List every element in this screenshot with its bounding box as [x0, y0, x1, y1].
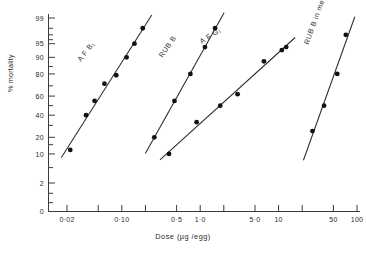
data-point: [343, 32, 348, 37]
data-point: [152, 135, 157, 140]
series-line-0: [61, 15, 152, 158]
x-tick-label-1·0: 1·0: [195, 216, 206, 223]
x-tick-label-50: 50: [329, 216, 337, 223]
y-tick-label-80: 80: [36, 71, 44, 78]
data-point: [218, 103, 223, 108]
data-point: [114, 73, 119, 78]
y-tick-label-2: 2: [40, 180, 44, 187]
x-tick-group: 0·020·100·51·05·01050100: [59, 205, 363, 223]
data-point: [167, 152, 172, 157]
data-point: [235, 92, 240, 97]
series-label-3: RUB B in medium: [302, 0, 333, 46]
data-point: [188, 72, 193, 77]
series-line-2: [160, 37, 295, 159]
data-point: [132, 41, 137, 46]
data-point: [262, 59, 267, 64]
data-point: [279, 48, 284, 53]
y-tick-label-0: 0: [40, 208, 44, 215]
y-tick-label-90: 90: [36, 54, 44, 61]
y-tick-label-60: 60: [36, 93, 44, 100]
plot-group: A F B₁RUB BA F G₁RUB B in medium: [61, 0, 355, 160]
data-point: [284, 45, 289, 50]
data-point: [140, 26, 145, 31]
data-point: [68, 147, 73, 152]
y-tick-label-20: 20: [36, 134, 44, 141]
data-point: [102, 81, 107, 86]
series-label-2: A F G₁: [198, 25, 223, 46]
data-point: [322, 103, 327, 108]
data-point: [124, 55, 129, 60]
probit-mortality-chart: % mortality Dose (µg /egg) 9995908060402…: [0, 0, 366, 253]
y-tick-label-99: 99: [36, 15, 44, 22]
x-tick-label-100: 100: [351, 216, 364, 223]
y-tick-group: 999590806040201020: [36, 15, 55, 216]
y-tick-label-95: 95: [36, 40, 44, 47]
data-point: [92, 99, 97, 104]
y-tick-label-10: 10: [36, 151, 44, 158]
x-tick-label-0·5: 0·5: [171, 216, 182, 223]
y-tick-label-40: 40: [36, 112, 44, 119]
data-point: [172, 99, 177, 104]
x-tick-label-10: 10: [274, 216, 282, 223]
data-point: [194, 120, 199, 125]
chart-canvas: 999590806040201020 0·020·100·51·05·01050…: [0, 0, 366, 253]
series-label-1: RUB B: [157, 34, 178, 59]
x-tick-label-5·0: 5·0: [249, 216, 260, 223]
series-label-0: A F B₁: [75, 40, 96, 64]
data-point: [310, 129, 315, 134]
data-point: [335, 72, 340, 77]
x-tick-label-0·02: 0·02: [59, 216, 74, 223]
data-point: [84, 113, 89, 118]
x-tick-label-0·10: 0·10: [114, 216, 129, 223]
